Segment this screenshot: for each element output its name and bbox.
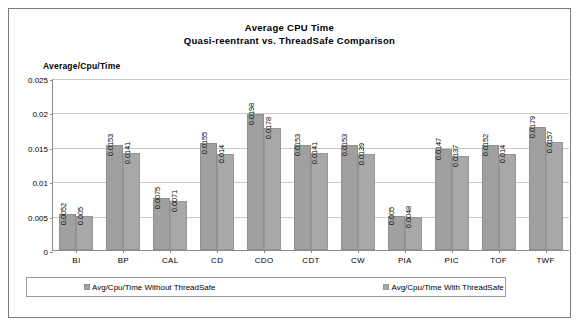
bar-value-label: 0.0147 <box>434 138 443 160</box>
bar[interactable]: 0.0075 <box>153 198 170 250</box>
bar-slot: 0.014 <box>217 79 234 250</box>
chart-title-block: Average CPU Time Quasi-reentrant vs. Thr… <box>9 21 570 47</box>
y-axis-title: Average/Cpu/Time <box>43 61 120 71</box>
x-tick-mark <box>546 250 547 253</box>
bar-slot: 0.0153 <box>106 79 123 250</box>
bar-slot: 0.005 <box>388 79 405 250</box>
chart-subtitle: Quasi-reentrant vs. ThreadSafe Compariso… <box>9 34 570 47</box>
bar-group: 0.0050.0048PIA <box>381 79 428 250</box>
bar[interactable]: 0.0139 <box>358 154 375 250</box>
x-tick-mark <box>311 250 312 253</box>
bar[interactable]: 0.0179 <box>529 127 546 250</box>
legend-swatch-icon <box>84 284 90 290</box>
bar[interactable]: 0.0137 <box>452 156 469 250</box>
bar[interactable]: 0.0141 <box>123 153 140 250</box>
x-tick-label: CDT <box>302 256 319 265</box>
bar-slot: 0.0153 <box>341 79 358 250</box>
bar-value-label: 0.0153 <box>106 134 115 156</box>
bar-value-label: 0.0139 <box>357 143 366 165</box>
chart-frame: Average CPU Time Quasi-reentrant vs. Thr… <box>8 8 571 318</box>
legend-label: Avg/Cpu/Time Without ThreadSafe <box>92 283 215 292</box>
bar-slot: 0.0141 <box>311 79 328 250</box>
x-tick-label: BP <box>118 256 129 265</box>
bar-slot: 0.0147 <box>435 79 452 250</box>
y-tick-label: 0.02 <box>32 110 48 119</box>
bar-slot: 0.0048 <box>405 79 422 250</box>
y-tick-label: 0.01 <box>32 179 48 188</box>
bar-value-label: 0.0153 <box>293 134 302 156</box>
x-tick-mark <box>405 250 406 253</box>
bar[interactable]: 0.0052 <box>59 214 76 250</box>
x-tick-label: TOF <box>490 256 507 265</box>
bar-slot: 0.0137 <box>452 79 469 250</box>
bar-value-label: 0.0157 <box>545 131 554 153</box>
bar-slot: 0.0071 <box>170 79 187 250</box>
x-tick-mark <box>76 250 77 253</box>
legend-item[interactable]: Avg/Cpu/Time With ThreadSafe <box>383 283 503 292</box>
x-tick-mark <box>123 250 124 253</box>
bar-value-label: 0.0179 <box>528 116 537 138</box>
x-tick-label: CD <box>211 256 223 265</box>
bar-value-label: 0.0153 <box>340 134 349 156</box>
plot-inner: 00.0050.010.0150.020.025 0.00520.005BI0.… <box>52 79 569 251</box>
bar-slot: 0.0075 <box>153 79 170 250</box>
bar[interactable]: 0.005 <box>388 216 405 250</box>
bar[interactable]: 0.014 <box>217 154 234 250</box>
bar-slot: 0.014 <box>499 79 516 250</box>
bar-value-label: 0.0075 <box>153 187 162 209</box>
bar[interactable]: 0.0178 <box>264 128 281 250</box>
x-tick-mark <box>170 250 171 253</box>
bar-group: 0.01980.0178CDO <box>241 79 288 250</box>
legend-label: Avg/Cpu/Time With ThreadSafe <box>391 283 503 292</box>
bar[interactable]: 0.0152 <box>482 145 499 250</box>
bar-value-label: 0.014 <box>217 145 226 163</box>
bar-slot: 0.0198 <box>247 79 264 250</box>
bar[interactable]: 0.005 <box>76 216 93 250</box>
bar-value-label: 0.0178 <box>264 116 273 138</box>
bar[interactable]: 0.0198 <box>247 114 264 250</box>
x-tick-mark <box>264 250 265 253</box>
bar-value-label: 0.0198 <box>247 103 256 125</box>
bar[interactable]: 0.014 <box>499 154 516 250</box>
x-tick-mark <box>217 250 218 253</box>
bar-slot: 0.0052 <box>59 79 76 250</box>
legend-item[interactable]: Avg/Cpu/Time Without ThreadSafe <box>84 283 215 292</box>
bar-group: 0.01530.0141BP <box>100 79 147 250</box>
x-tick-mark <box>499 250 500 253</box>
bar-value-label: 0.0071 <box>170 190 179 212</box>
bar-value-label: 0.0141 <box>123 142 132 164</box>
bar-value-label: 0.0155 <box>200 132 209 154</box>
bar[interactable]: 0.0147 <box>435 149 452 250</box>
y-tick-mark <box>50 252 53 253</box>
bar-value-label: 0.014 <box>498 145 507 163</box>
y-tick-label: 0.025 <box>28 76 48 85</box>
bar[interactable]: 0.0048 <box>405 217 422 250</box>
bar-value-label: 0.005 <box>387 206 396 224</box>
bar-value-label: 0.0048 <box>404 206 413 228</box>
x-tick-label: CDO <box>255 256 274 265</box>
bar-group: 0.00520.005BI <box>53 79 100 250</box>
bar-groups: 0.00520.005BI0.01530.0141BP0.00750.0071C… <box>53 79 569 250</box>
bar-slot: 0.005 <box>76 79 93 250</box>
x-tick-label: CW <box>351 256 365 265</box>
bar[interactable]: 0.0071 <box>170 201 187 250</box>
y-tick-label: 0.005 <box>28 213 48 222</box>
bar-slot: 0.0178 <box>264 79 281 250</box>
bar-value-label: 0.005 <box>76 206 85 224</box>
bar-value-label: 0.0141 <box>310 142 319 164</box>
x-tick-label: CAL <box>162 256 178 265</box>
bar-slot: 0.0139 <box>358 79 375 250</box>
y-tick-label: 0 <box>44 248 48 257</box>
bar-group: 0.01530.0141CDT <box>288 79 335 250</box>
bar[interactable]: 0.0153 <box>341 145 358 250</box>
x-tick-label: PIA <box>398 256 412 265</box>
x-tick-label: TWF <box>536 256 554 265</box>
legend-swatch-icon <box>383 284 389 290</box>
bar[interactable]: 0.0141 <box>311 153 328 250</box>
bar[interactable]: 0.0155 <box>200 143 217 250</box>
x-tick-label: PIC <box>445 256 459 265</box>
bar[interactable]: 0.0153 <box>294 145 311 250</box>
bar-slot: 0.0179 <box>529 79 546 250</box>
bar[interactable]: 0.0153 <box>106 145 123 250</box>
bar[interactable]: 0.0157 <box>546 142 563 250</box>
